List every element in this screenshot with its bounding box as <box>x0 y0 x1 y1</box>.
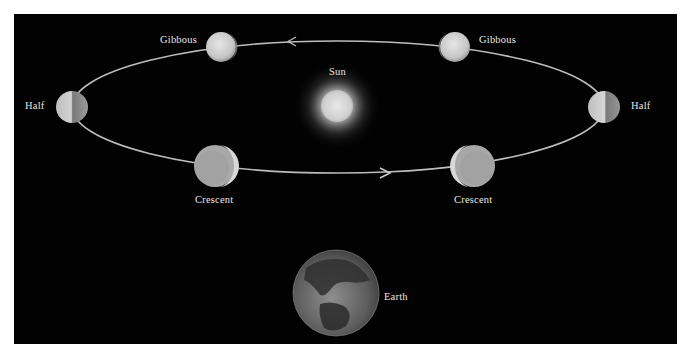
venus-gibbous-left-icon <box>206 32 238 62</box>
venus-crescent-left-icon <box>194 145 239 187</box>
label-gibbous-right: Gibbous <box>479 34 516 46</box>
label-sun: Sun <box>329 66 346 78</box>
venus-gibbous-right-icon <box>438 32 470 62</box>
label-earth: Earth <box>384 291 408 303</box>
label-half-right: Half <box>631 100 650 112</box>
venus-crescent-right-icon <box>450 145 495 187</box>
label-crescent-right: Crescent <box>454 194 492 206</box>
diagram-panel: Sun Gibbous Gibbous Half Half Crescent C… <box>14 14 677 344</box>
sun-icon <box>321 90 353 122</box>
venus-half-left-icon <box>56 91 88 123</box>
venus-half-right-icon <box>588 91 620 123</box>
diagram-canvas <box>14 14 677 344</box>
label-gibbous-left: Gibbous <box>160 34 197 46</box>
label-crescent-left: Crescent <box>195 194 233 206</box>
earth-icon <box>293 250 379 336</box>
label-half-left: Half <box>25 100 44 112</box>
